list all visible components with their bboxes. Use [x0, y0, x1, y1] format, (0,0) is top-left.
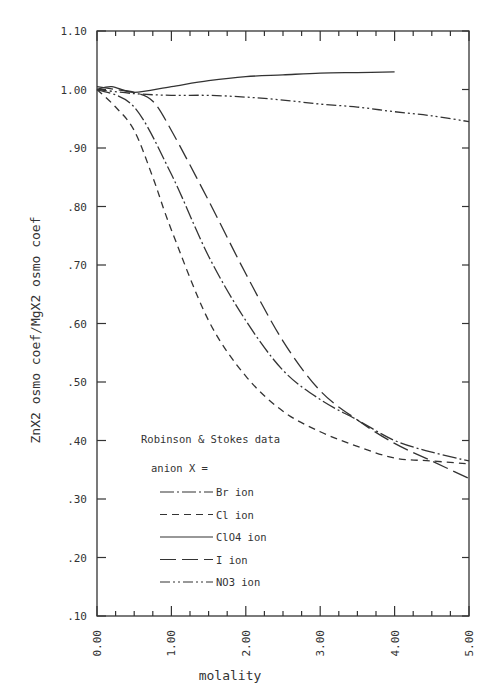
data-series — [97, 72, 469, 479]
y-axis-label: ZnX2 osmo coef/MgX2 osmo coef — [28, 217, 43, 444]
y-tick-label: .20 — [67, 552, 87, 565]
legend-item-label: Cl ion — [216, 509, 254, 521]
y-tick-label: 1.00 — [61, 84, 88, 97]
annotation-source: Robinson & Stokes data — [141, 433, 280, 445]
chart: .10.20.30.40.50.60.70.80.901.001.10 0.00… — [0, 0, 493, 700]
y-tick-label: .80 — [67, 201, 87, 214]
x-axis-label: molality — [199, 668, 262, 683]
series-line-no3-ion — [97, 90, 469, 122]
x-axis: 0.001.002.003.004.005.00 — [91, 31, 476, 657]
legend-item-label: ClO4 ion — [216, 531, 267, 543]
x-tick-label: 5.00 — [463, 630, 476, 657]
y-tick-label: .40 — [67, 435, 87, 448]
legend: Br ionCl ionClO4 ionI ionNO3 ion — [160, 486, 267, 588]
series-line-clo4-ion — [97, 72, 395, 92]
y-tick-label: .30 — [67, 493, 87, 506]
x-tick-label: 1.00 — [165, 630, 178, 657]
legend-title: anion X = — [151, 462, 208, 474]
legend-item-label: I ion — [216, 554, 248, 566]
series-line-i-ion — [97, 87, 469, 479]
x-tick-label: 0.00 — [91, 630, 104, 657]
y-tick-label: .60 — [67, 318, 87, 331]
y-tick-label: .90 — [67, 142, 87, 155]
series-line-br-ion — [97, 90, 469, 461]
y-tick-label: .70 — [67, 259, 87, 272]
plot-frame — [97, 31, 469, 616]
y-tick-label: 1.10 — [61, 25, 88, 38]
legend-item-label: NO3 ion — [216, 576, 260, 588]
x-tick-label: 4.00 — [389, 630, 402, 657]
y-tick-label: .50 — [67, 376, 87, 389]
x-tick-label: 2.00 — [240, 630, 253, 657]
x-tick-label: 3.00 — [314, 630, 327, 657]
y-tick-label: .10 — [67, 610, 87, 623]
series-line-cl-ion — [97, 90, 469, 464]
legend-item-label: Br ion — [216, 486, 254, 498]
